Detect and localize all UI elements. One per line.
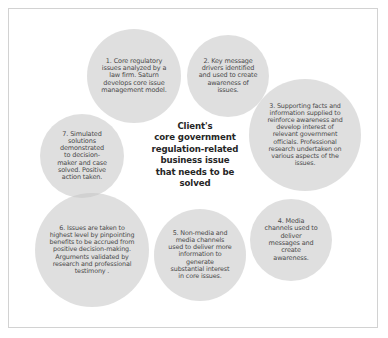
process-circle-1-label: 1. Core regulatory issues analyzed by a … — [98, 58, 169, 94]
process-circle-4[interactable]: 4. Media channels used to deliver messag… — [250, 199, 332, 281]
process-circle-7[interactable]: 7. Simulated solutions demonstrated to d… — [40, 114, 124, 198]
process-circle-3-label: 3. Supporting facts and information supp… — [264, 103, 345, 168]
process-circle-3[interactable]: 3. Supporting facts and information supp… — [249, 79, 361, 191]
process-circle-7-label: 7. Simulated solutions demonstrated to d… — [54, 131, 110, 182]
process-circle-4-label: 4. Media channels used to deliver messag… — [262, 218, 321, 262]
process-circle-5-label: 5. Non-media and media channels used to … — [165, 230, 234, 280]
process-circle-1[interactable]: 1. Core regulatory issues analyzed by a … — [87, 29, 181, 123]
diagram-canvas: 1. Core regulatory issues analyzed by a … — [0, 0, 388, 338]
process-circle-6-label: 6. Issues are taken to highest level by … — [47, 225, 138, 275]
process-circle-2-label: 2. Key message drivers identified and us… — [196, 58, 261, 94]
process-circle-6[interactable]: 6. Issues are taken to highest level by … — [35, 193, 149, 307]
process-circle-5[interactable]: 5. Non-media and media channels used to … — [154, 209, 246, 301]
center-core-issue-text: Client's core government regulation-rela… — [143, 121, 247, 190]
diagram-stage: 1. Core regulatory issues analyzed by a … — [0, 0, 388, 338]
